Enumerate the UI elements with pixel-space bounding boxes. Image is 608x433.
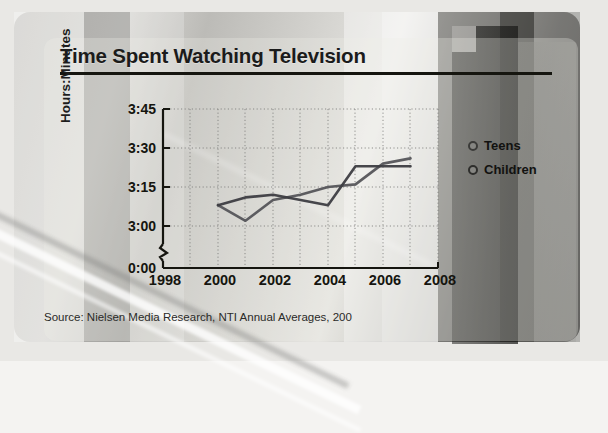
series-line-children: [218, 166, 411, 205]
gridlines: [163, 109, 438, 268]
series-line-teens: [218, 158, 411, 220]
legend: Teens Children: [468, 138, 537, 186]
circle-outline-icon: [468, 141, 478, 151]
legend-item-teens: Teens: [468, 138, 537, 153]
legend-label: Teens: [484, 138, 521, 153]
legend-item-children: Children: [468, 162, 537, 177]
legend-label: Children: [484, 162, 537, 177]
source-note: Source: Nielsen Media Research, NTI Annu…: [44, 311, 352, 323]
axis-lines: [160, 109, 438, 268]
circle-outline-icon: [468, 165, 478, 175]
axis-break-icon: [160, 244, 167, 261]
